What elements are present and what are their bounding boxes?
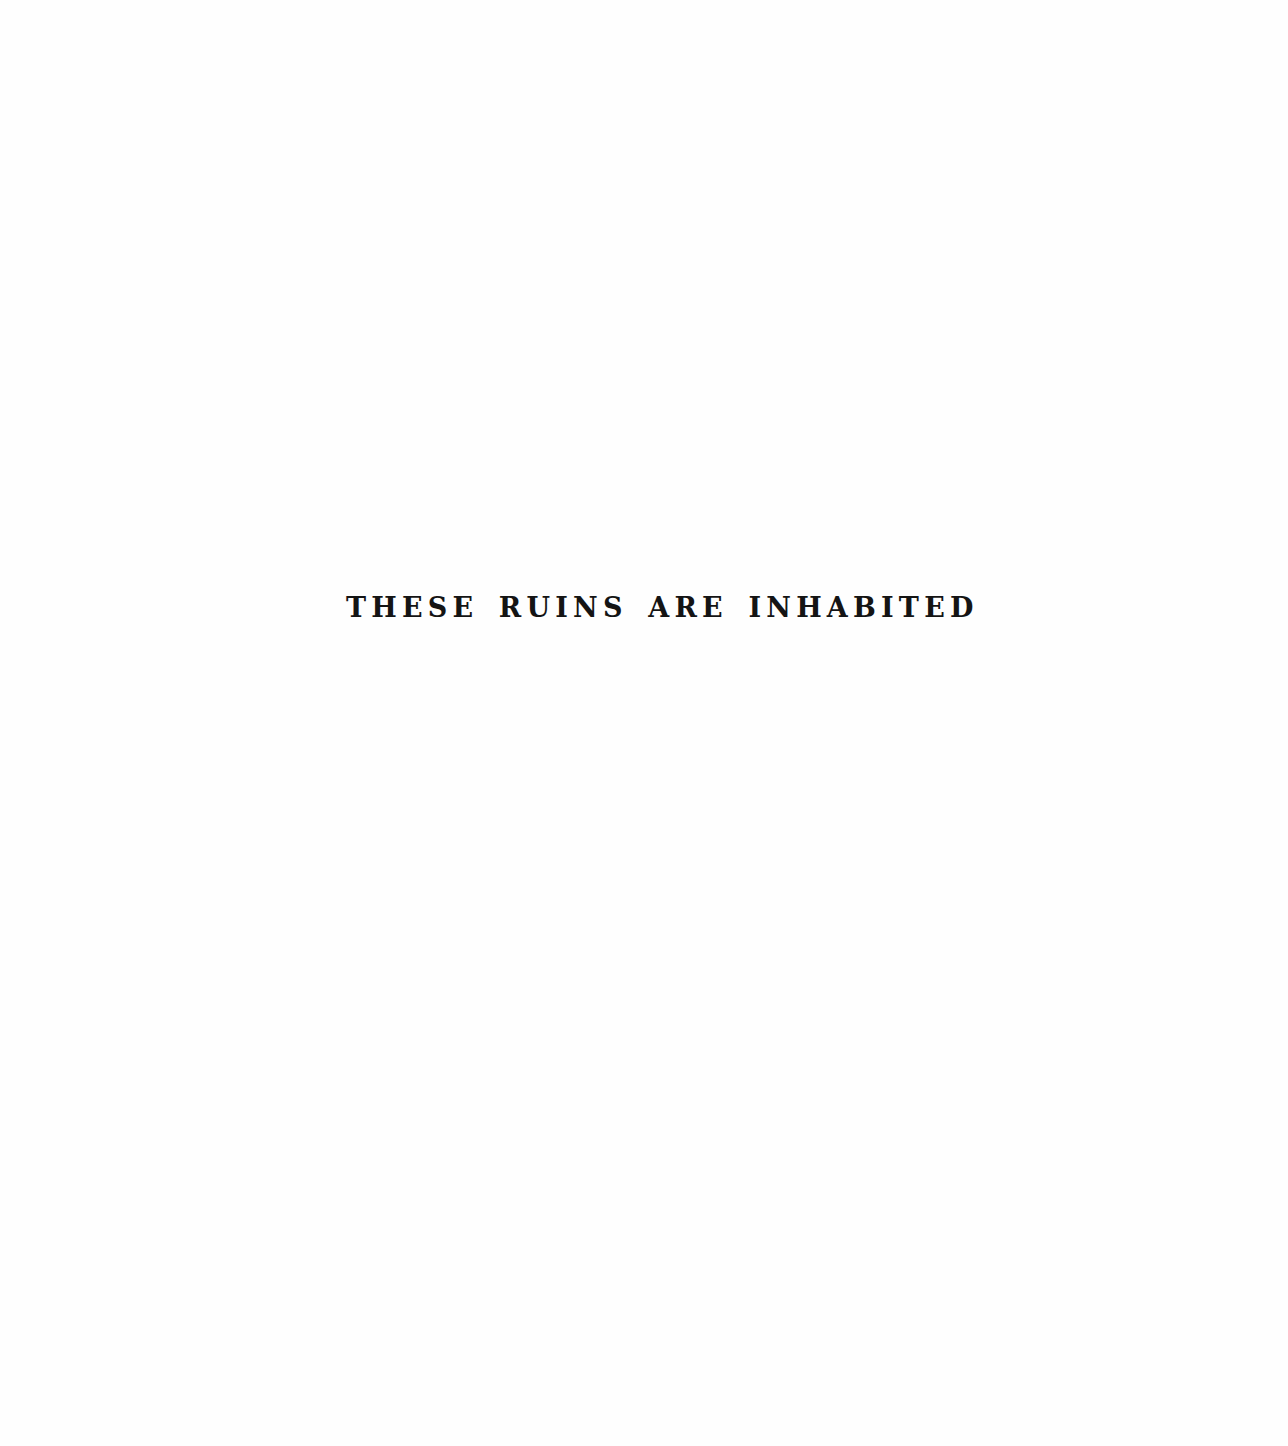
half-title: THESE RUINS ARE INHABITED [346, 586, 1018, 630]
book-page: THESE RUINS ARE INHABITED [0, 0, 1288, 1446]
